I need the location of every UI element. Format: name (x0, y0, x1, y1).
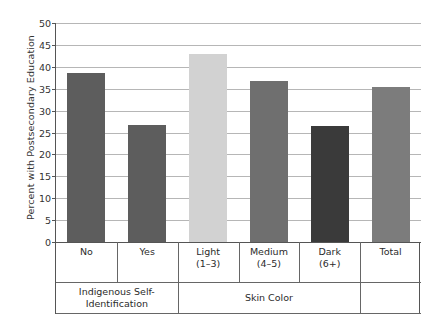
bar-dark (311, 126, 349, 242)
bar-total (372, 87, 410, 242)
y-tick-label-15: 15 (39, 171, 51, 182)
x-category-dark: Dark(6+) (299, 242, 360, 282)
y-tick-label-50: 50 (39, 18, 51, 29)
x-category-separator (360, 242, 361, 282)
x-category-yes: Yes (117, 242, 178, 282)
y-tick-label-40: 40 (39, 61, 51, 72)
y-tick-label-10: 10 (39, 193, 51, 204)
x-category-sublabel: (6+) (319, 258, 340, 270)
x-category-total: Total (360, 242, 421, 282)
bars-group (56, 23, 421, 242)
bar-chart-figure: Percent with Postsecondary Education 051… (0, 0, 441, 326)
x-group-total (360, 282, 421, 314)
y-tick-label-45: 45 (39, 39, 51, 50)
x-category-sublabel: (4–5) (257, 258, 281, 270)
x-category-label: Medium (250, 246, 288, 258)
x-category-label: Light (196, 246, 220, 258)
y-tick-label-30: 30 (39, 105, 51, 116)
y-tick-label-20: 20 (39, 149, 51, 160)
bar-no (67, 73, 105, 242)
x-category-separator (117, 242, 118, 282)
y-tick-label-25: 25 (39, 127, 51, 138)
y-tick-label-35: 35 (39, 83, 51, 94)
x-category-label: Dark (318, 246, 341, 258)
bar-yes (128, 125, 166, 242)
x-category-label: Yes (140, 246, 155, 258)
x-category-separator (178, 242, 179, 282)
bar-medium (250, 81, 288, 242)
x-category-light: Light(1–3) (178, 242, 239, 282)
x-group-indigenous-self-identification: Indigenous Self-Identification (56, 282, 178, 314)
x-category-separator (299, 242, 300, 282)
bar-light (189, 54, 227, 242)
x-category-label: Total (379, 246, 401, 258)
x-axis-table: NoYesLight(1–3)Medium(4–5)Dark(6+)TotalI… (55, 242, 420, 314)
x-group-separator (360, 282, 361, 314)
x-group-separator (178, 282, 179, 314)
y-tick-label-0: 0 (45, 237, 51, 248)
y-tick-label-5: 5 (45, 215, 51, 226)
y-axis-title: Percent with Postsecondary Education (25, 3, 36, 253)
x-category-no: No (56, 242, 117, 282)
plot-area: 05101520253035404550 (55, 23, 420, 242)
x-category-separator (239, 242, 240, 282)
x-group-skin-color: Skin Color (178, 282, 361, 314)
x-category-label: No (80, 246, 93, 258)
x-category-sublabel: (1–3) (196, 258, 220, 270)
x-category-medium: Medium(4–5) (239, 242, 300, 282)
